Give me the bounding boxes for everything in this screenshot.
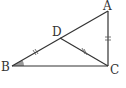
triangle-diagram: A B C D: [0, 0, 126, 88]
label-d: D: [52, 25, 62, 39]
label-c: C: [110, 63, 119, 77]
label-b: B: [1, 60, 10, 74]
label-a: A: [102, 0, 112, 13]
